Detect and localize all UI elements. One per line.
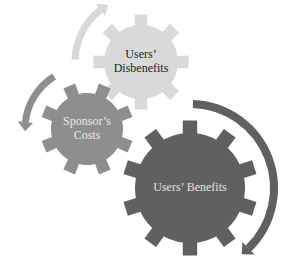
arrow-light-body (75, 10, 100, 60)
sponsors-costs-label-line-2: Costs (63, 129, 111, 143)
users-disbenefits-label-line-2: Disbenefits (114, 62, 169, 76)
sponsors-costs-label: Sponsor’s Costs (63, 115, 111, 143)
users-benefits-label: Users’ Benefits (153, 181, 226, 195)
arrow-medium-head-icon (18, 121, 33, 131)
sponsors-costs-label-line-1: Sponsor’s (63, 115, 111, 129)
gear-cycle-diagram: Users’ Disbenefits Sponsor’s Costs Users… (0, 0, 297, 272)
gear-diagram-canvas (0, 0, 297, 272)
users-benefits-label-line-1: Users’ Benefits (153, 181, 226, 195)
users-disbenefits-label-line-1: Users’ (114, 48, 169, 62)
users-disbenefits-label: Users’ Disbenefits (114, 48, 169, 76)
